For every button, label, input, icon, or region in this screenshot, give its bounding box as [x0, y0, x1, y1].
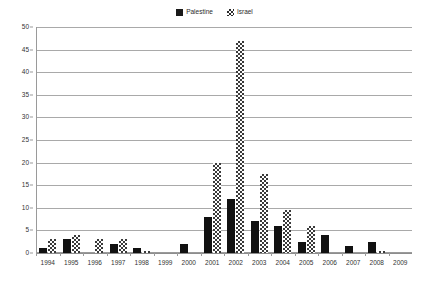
bar-group-1997	[107, 27, 131, 253]
legend-label-palestine: Palestine	[186, 9, 213, 16]
y-axis-labels: 05101520253035404550	[0, 27, 33, 253]
x-axis-tick-mark	[295, 253, 296, 256]
x-axis-tick-label: 2005	[299, 260, 313, 267]
x-axis-slot-2006: 2006	[318, 253, 342, 279]
x-axis-slot-1996: 1996	[83, 253, 107, 279]
chart-legend: Palestine Israel	[0, 6, 429, 18]
y-axis-tick-mark	[30, 49, 33, 50]
y-axis-tick-mark	[30, 94, 33, 95]
bar-group-2009	[389, 27, 413, 253]
y-axis-tick-mark	[30, 162, 33, 163]
x-axis-slot-2004: 2004	[271, 253, 295, 279]
solid-square-icon	[176, 9, 183, 16]
x-axis-tick-label: 1994	[41, 260, 55, 267]
x-axis-slot-2003: 2003	[248, 253, 272, 279]
x-axis-tick-mark	[201, 253, 202, 256]
y-axis-tick-mark	[30, 72, 33, 73]
bar-group-2004	[271, 27, 295, 253]
x-axis-tick-mark	[342, 253, 343, 256]
bar-palestine-2000	[180, 244, 188, 253]
bar-israel-2005	[307, 226, 315, 253]
x-axis-slot-1998: 1998	[130, 253, 154, 279]
x-axis-tick-label: 1999	[158, 260, 172, 267]
bar-group-1999	[154, 27, 178, 253]
bar-group-1998	[130, 27, 154, 253]
y-axis-tick-mark	[30, 207, 33, 208]
bar-palestine-2003	[251, 221, 259, 253]
bar-palestine-1997	[110, 244, 118, 253]
x-axis-slot-2009: 2009	[389, 253, 413, 279]
bar-israel-2003	[260, 174, 268, 253]
x-axis-slot-2008: 2008	[365, 253, 389, 279]
x-axis-slot-2005: 2005	[295, 253, 319, 279]
y-axis-tick-mark	[30, 117, 33, 118]
bar-chart: Palestine Israel 05101520253035404550 19…	[0, 0, 429, 281]
y-axis-tick-label: 25	[22, 137, 29, 144]
hatched-square-icon	[227, 9, 234, 16]
y-axis-tick-label: 20	[22, 159, 29, 166]
bar-group-1994	[36, 27, 60, 253]
bar-group-2007	[342, 27, 366, 253]
bar-group-1996	[83, 27, 107, 253]
x-axis-slot-2000: 2000	[177, 253, 201, 279]
bar-palestine-2007	[345, 246, 353, 253]
x-axis-slot-1995: 1995	[60, 253, 84, 279]
y-axis-tick-label: 15	[22, 182, 29, 189]
y-axis-tick-label: 10	[22, 205, 29, 212]
x-axis-tick-mark	[154, 253, 155, 256]
bar-israel-1997	[119, 239, 127, 253]
bar-palestine-2005	[298, 242, 306, 253]
y-axis-tick-label: 40	[22, 69, 29, 76]
bar-palestine-2008	[368, 242, 376, 253]
bar-group-2000	[177, 27, 201, 253]
bar-group-2008	[365, 27, 389, 253]
x-axis-tick-label: 2004	[276, 260, 290, 267]
bar-palestine-2006	[321, 235, 329, 253]
x-axis-slot-1994: 1994	[36, 253, 60, 279]
x-axis-tick-mark	[60, 253, 61, 256]
x-axis-tick-mark	[224, 253, 225, 256]
legend-label-israel: Israel	[237, 9, 253, 16]
bar-palestine-2004	[274, 226, 282, 253]
bar-group-2002	[224, 27, 248, 253]
bar-palestine-2001	[204, 217, 212, 253]
x-axis-tick-mark	[130, 253, 131, 256]
x-axis-tick-mark	[318, 253, 319, 256]
x-axis-slot-1997: 1997	[107, 253, 131, 279]
y-axis-tick-label: 0	[25, 250, 29, 257]
bar-group-2001	[201, 27, 225, 253]
x-axis-tick-mark	[365, 253, 366, 256]
bar-group-1995	[60, 27, 84, 253]
x-axis-tick-mark	[36, 253, 37, 256]
y-axis-tick-mark	[30, 27, 33, 28]
bars-layer	[36, 27, 412, 253]
bar-group-2006	[318, 27, 342, 253]
bar-israel-2002	[236, 41, 244, 253]
x-axis-tick-label: 2006	[323, 260, 337, 267]
bar-israel-1994	[48, 239, 56, 253]
x-axis-tick-label: 2002	[229, 260, 243, 267]
x-axis-tick-label: 1997	[111, 260, 125, 267]
x-axis-slot-2007: 2007	[342, 253, 366, 279]
bar-palestine-2002	[227, 199, 235, 253]
x-axis-tick-mark	[177, 253, 178, 256]
x-axis-tick-label: 2003	[252, 260, 266, 267]
y-axis-tick-mark	[30, 140, 33, 141]
x-axis-tick-label: 2009	[393, 260, 407, 267]
x-axis-slot-2002: 2002	[224, 253, 248, 279]
y-axis-tick-label: 30	[22, 114, 29, 121]
x-axis-tick-label: 2008	[370, 260, 384, 267]
legend-item-palestine: Palestine	[176, 9, 213, 16]
x-axis-tick-label: 1998	[135, 260, 149, 267]
legend-item-israel: Israel	[227, 9, 253, 16]
x-axis-slot-1999: 1999	[154, 253, 178, 279]
bar-israel-2001	[213, 163, 221, 253]
y-axis-tick-mark	[30, 230, 33, 231]
x-axis-tick-label: 2007	[346, 260, 360, 267]
bar-israel-1996	[95, 239, 103, 253]
x-axis-tick-mark	[271, 253, 272, 256]
x-axis-tick-mark	[248, 253, 249, 256]
y-axis-tick-mark	[30, 185, 33, 186]
bar-israel-2004	[283, 210, 291, 253]
y-axis-tick-label: 35	[22, 92, 29, 99]
